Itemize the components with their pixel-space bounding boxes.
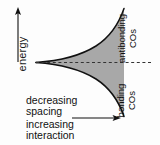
antibonding-label-line2: COs: [127, 8, 138, 70]
bonding-label-line1: bonding: [116, 70, 127, 132]
decreasing-spacing-caption: decreasing spacing: [26, 95, 77, 117]
bonding-cos-label: bonding COs: [116, 70, 137, 132]
increasing-interaction-caption: increasing interaction: [26, 119, 74, 141]
antibonding-cos-label: antibonding COs: [117, 8, 138, 70]
caption-b-line2: interaction: [26, 130, 74, 141]
band-diagram-figure: energy antibonding COs bonding COs decre…: [0, 0, 160, 145]
antibonding-label-line1: antibonding: [117, 8, 128, 70]
caption-a-line2: spacing: [26, 106, 77, 117]
bonding-label-line2: COs: [126, 70, 137, 132]
energy-axis-label: energy: [16, 24, 28, 84]
